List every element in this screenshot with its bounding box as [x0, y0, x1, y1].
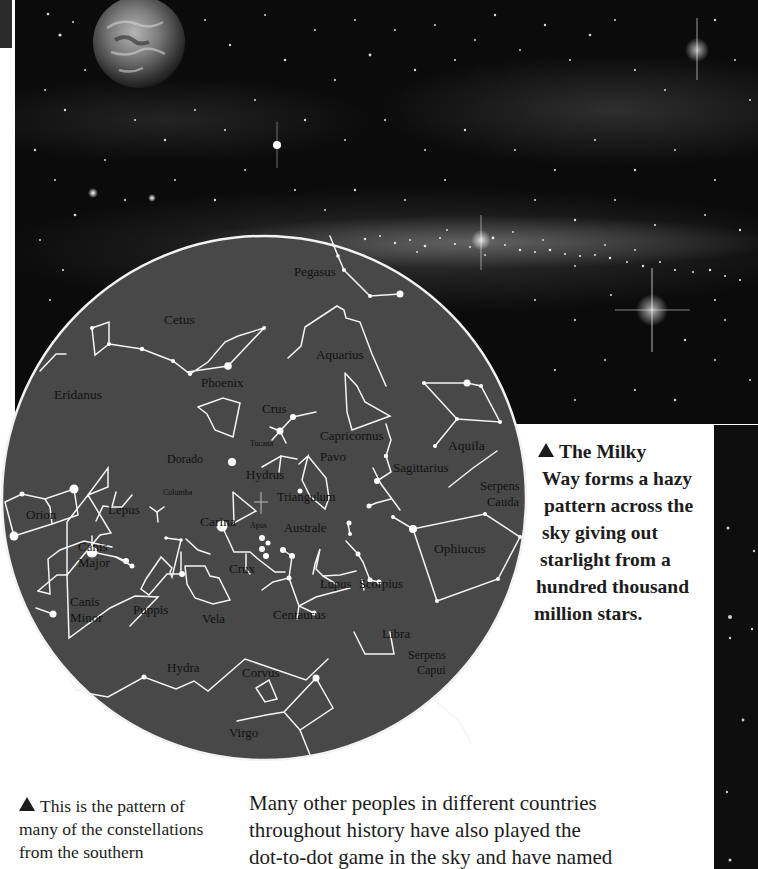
label-canis-minor-2: Minor	[70, 610, 103, 625]
label-capricornus: Capricornus	[320, 428, 384, 443]
triangle-up-icon	[538, 443, 554, 457]
label-crus: Crus	[262, 401, 287, 416]
label-dorado: Dorado	[167, 452, 203, 466]
label-serpens-capui: Serpens	[408, 648, 446, 662]
corner-dark-block	[0, 0, 12, 48]
label-columba: Columba	[163, 488, 193, 497]
label-apus: Apus	[250, 521, 267, 530]
planet-icon	[93, 0, 185, 88]
label-canis-minor: Canis	[70, 594, 100, 609]
caption-line: sky giving out	[538, 519, 714, 546]
caption-line: Way forms a hazy	[538, 465, 714, 492]
milky-way-caption: The Milky Way forms a hazy pattern acros…	[538, 438, 714, 627]
caption-line: pattern across the	[538, 492, 714, 519]
label-hydra: Hydra	[167, 660, 200, 675]
caption-line: from the southern	[19, 841, 229, 864]
label-lepus: Lepus	[108, 502, 140, 517]
label-australe: Australe	[284, 521, 327, 535]
label-serpens-cauda-2: Cauda	[487, 495, 519, 509]
label-virgo: Virgo	[229, 725, 258, 740]
caption-line: The Milky	[538, 438, 714, 465]
label-scorpius: Scorpius	[359, 577, 403, 591]
label-orion: Orion	[26, 507, 57, 522]
body-line: Many other peoples in different countrie…	[249, 790, 709, 817]
label-libra: Libra	[382, 626, 410, 641]
label-vela: Vela	[202, 611, 225, 626]
label-canis-major: Canis	[78, 539, 108, 554]
caption-line: many of the constellations	[19, 818, 229, 841]
body-paragraph: Many other peoples in different countrie…	[249, 790, 709, 869]
label-tucana: Tucana	[250, 439, 274, 448]
label-pavo: Pavo	[320, 449, 346, 464]
caption-line: hundred thousand	[536, 573, 714, 600]
caption-line: This is the pattern of	[19, 795, 229, 818]
body-line: throughout history have also played the	[249, 817, 709, 844]
label-aquarius: Aquarius	[316, 347, 364, 362]
body-line: dot-to-dot game in the sky and have name…	[249, 844, 709, 869]
caption-line: starlight from a	[538, 546, 714, 573]
triangle-up-icon	[19, 797, 35, 811]
label-canis-major-2: Major	[78, 555, 110, 570]
label-eridanus: Eridanus	[54, 387, 102, 402]
label-puppis: Puppis	[133, 602, 168, 617]
map-disc	[2, 236, 526, 760]
caption-line: million stars.	[534, 600, 714, 627]
constellation-star-map: Pegasus Cetus Aquarius Phoenix Eridanus …	[0, 234, 530, 764]
label-sagittarius: Sagittarius	[393, 460, 449, 475]
label-serpens-cauda: Serpens	[480, 479, 520, 493]
label-cetus: Cetus	[164, 312, 195, 327]
label-phoenix: Phoenix	[201, 375, 244, 390]
label-pegasus: Pegasus	[294, 264, 336, 279]
label-triangulum: Triangulum	[277, 490, 336, 504]
star-map-caption: This is the pattern of many of the const…	[19, 795, 229, 864]
label-centaurus: Centaurus	[273, 607, 326, 622]
label-crux: Crux	[229, 561, 256, 576]
label-aquila: Aquila	[448, 438, 485, 453]
star-field-icon	[714, 425, 758, 869]
label-lupus: Lupus	[320, 577, 351, 591]
label-serpens-capui-2: Capui	[417, 663, 446, 677]
right-photo-strip	[714, 425, 758, 869]
label-carina: Carina	[200, 514, 236, 529]
label-hydrus: Hydrus	[246, 467, 284, 482]
label-ophiucus: Ophiucus	[434, 541, 486, 556]
label-corvus: Corvus	[242, 665, 280, 680]
